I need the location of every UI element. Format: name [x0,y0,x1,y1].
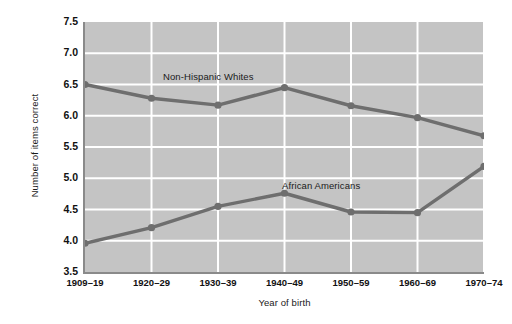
data-point-marker [214,203,221,210]
data-point-marker [281,84,288,91]
y-axis-tick-labels: 7.57.06.56.05.55.04.54.03.5 [0,0,78,324]
data-point-marker [148,95,155,102]
data-point-marker [347,208,354,215]
y-axis-tick-label: 5.0 [6,171,78,183]
series-annotation-african-americans: African Americans [282,180,360,191]
x-axis-spine [83,272,484,274]
y-axis-tick-label: 7.0 [6,46,78,58]
y-axis-tick-label: 3.5 [6,265,78,277]
data-point-marker [148,224,155,231]
data-point-marker [214,102,221,109]
plot-svg [85,22,484,272]
y-axis-tick-label: 6.5 [6,78,78,90]
y-axis-tick-label: 4.0 [6,234,78,246]
x-axis-label: Year of birth [85,297,484,308]
y-axis-tick-label: 5.5 [6,140,78,152]
series-annotation-non-hispanic-whites: Non-Hispanic Whites [163,71,254,82]
data-point-marker [347,102,354,109]
data-point-marker [414,114,421,121]
line-chart-figure: Number of items correct 7.57.06.56.05.55… [0,0,512,324]
plot-area [85,22,484,272]
y-axis-tick-label: 4.5 [6,203,78,215]
y-axis-tick-label: 6.0 [6,109,78,121]
y-axis-tick-label: 7.5 [6,15,78,27]
data-point-marker [414,209,421,216]
x-axis-tick-label: 1970–74 [439,277,512,288]
data-point-marker [85,81,89,88]
x-axis-tick-labels: 1909–191920–291930–391940–491950–591960–… [0,277,512,293]
